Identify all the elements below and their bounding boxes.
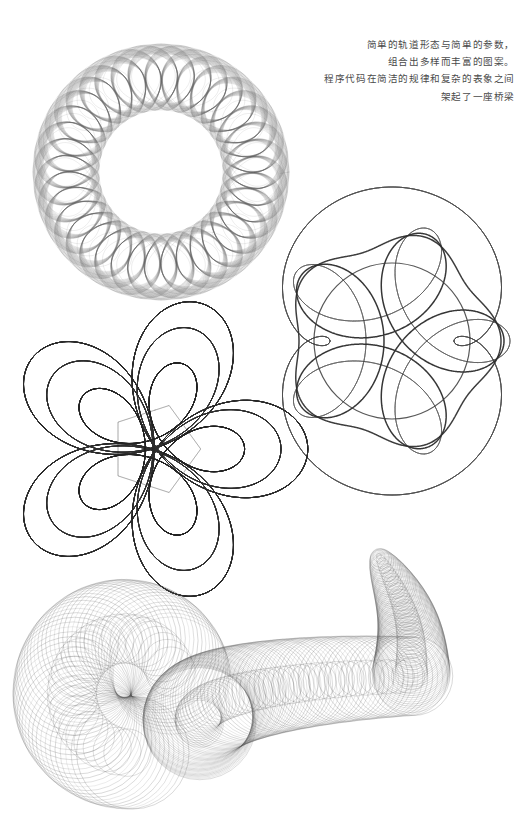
generative-art-svg [0, 0, 529, 836]
caption-line-4: 架起了一座桥梁 [255, 88, 515, 105]
caption-line-1: 简单的轨道形态与简单的参数， [255, 36, 515, 53]
caption-block: 简单的轨道形态与简单的参数， 组合出多样而丰富的图案。 程序代码在简洁的规律和复… [255, 36, 515, 105]
poster-canvas: 简单的轨道形态与简单的参数， 组合出多样而丰富的图案。 程序代码在简洁的规律和复… [0, 0, 529, 836]
caption-line-2: 组合出多样而丰富的图案。 [255, 53, 515, 70]
caption-line-3: 程序代码在简洁的规律和复杂的表象之间 [255, 70, 515, 87]
